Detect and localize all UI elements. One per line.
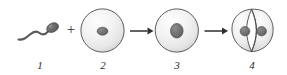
- arrow-2-head-icon: [222, 27, 228, 34]
- arrow-2: [205, 27, 229, 34]
- daughter-nucleus-left: [240, 27, 250, 36]
- fertilization-diagram: + 1 2 3 4: [0, 0, 287, 75]
- zygote-nucleus: [171, 24, 184, 39]
- sperm-cell: [19, 21, 61, 40]
- plus-sign: +: [64, 21, 78, 37]
- daughter-nucleus-right: [257, 27, 267, 36]
- egg-nucleus: [97, 27, 108, 35]
- stage-label-1: 1: [30, 59, 50, 71]
- dividing-cell: [232, 9, 273, 51]
- arrow-1: [130, 27, 154, 34]
- stage-label-3: 3: [167, 59, 187, 71]
- sperm-tail-icon: [19, 32, 49, 40]
- arrow-1-head-icon: [148, 27, 154, 34]
- zygote-cell: [155, 9, 198, 52]
- egg-cell: [81, 9, 124, 52]
- stage-label-2: 2: [93, 59, 113, 71]
- stage-label-4: 4: [242, 59, 262, 71]
